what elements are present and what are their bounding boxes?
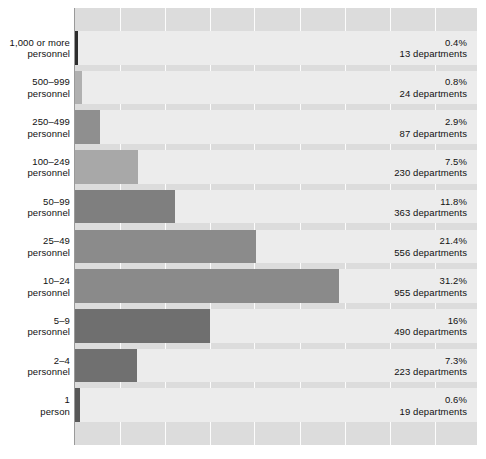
bar <box>75 31 78 65</box>
chart-row: 25–49personnel21.4%556 departments <box>0 227 486 267</box>
chart-row: 2–4personnel7.3%223 departments <box>0 346 486 386</box>
category-label: 100–249personnel <box>0 155 70 178</box>
category-label-line1: 1,000 or more <box>0 36 70 48</box>
value-percent: 16% <box>394 314 467 326</box>
category-label: 10–24personnel <box>0 275 70 298</box>
chart-row: 1person0.6%19 departments <box>0 385 486 425</box>
category-label-line1: 100–249 <box>0 155 70 167</box>
value-label: 16%490 departments <box>394 314 467 337</box>
value-label: 31.2%955 departments <box>394 275 467 298</box>
category-label: 500–999personnel <box>0 76 70 99</box>
value-count: 24 departments <box>400 87 467 99</box>
horizontal-bar-chart: 1,000 or morepersonnel0.4%13 departments… <box>0 0 486 459</box>
category-label-line1: 1 <box>0 394 70 406</box>
value-count: 13 departments <box>400 48 467 60</box>
value-percent: 0.4% <box>400 36 467 48</box>
bar <box>75 230 256 264</box>
category-label-line1: 2–4 <box>0 354 70 366</box>
category-label-line2: personnel <box>0 167 70 179</box>
chart-row: 250–499personnel2.9%87 departments <box>0 107 486 147</box>
category-label-line2: personnel <box>0 326 70 338</box>
category-label: 1,000 or morepersonnel <box>0 36 70 59</box>
bar <box>75 269 339 303</box>
category-label: 1person <box>0 394 70 417</box>
bar <box>75 150 138 184</box>
category-label-line1: 50–99 <box>0 195 70 207</box>
value-count: 556 departments <box>394 246 467 258</box>
category-label: 5–9personnel <box>0 314 70 337</box>
category-label-line2: personnel <box>0 286 70 298</box>
category-label-line1: 250–499 <box>0 116 70 128</box>
value-percent: 7.3% <box>394 354 467 366</box>
chart-row: 100–249personnel7.5%230 departments <box>0 147 486 187</box>
chart-row: 10–24personnel31.2%955 departments <box>0 266 486 306</box>
value-count: 87 departments <box>400 127 467 139</box>
category-label-line2: personnel <box>0 366 70 378</box>
category-label-line2: personnel <box>0 207 70 219</box>
chart-row: 50–99personnel11.8%363 departments <box>0 187 486 227</box>
bar <box>75 388 80 422</box>
value-percent: 31.2% <box>394 275 467 287</box>
value-label: 11.8%363 departments <box>394 195 467 218</box>
value-label: 0.6%19 departments <box>400 394 467 417</box>
value-count: 223 departments <box>394 366 467 378</box>
category-label-line2: personnel <box>0 87 70 99</box>
value-percent: 0.8% <box>400 76 467 88</box>
bar <box>75 110 100 144</box>
value-count: 230 departments <box>394 167 467 179</box>
value-count: 490 departments <box>394 326 467 338</box>
bar <box>75 190 175 224</box>
value-percent: 2.9% <box>400 116 467 128</box>
chart-row: 1,000 or morepersonnel0.4%13 departments <box>0 28 486 68</box>
category-label-line2: personnel <box>0 127 70 139</box>
category-label-line2: personnel <box>0 48 70 60</box>
category-label-line1: 10–24 <box>0 275 70 287</box>
chart-row: 5–9personnel16%490 departments <box>0 306 486 346</box>
bar <box>75 349 137 383</box>
bar <box>75 71 82 105</box>
category-label-line1: 5–9 <box>0 314 70 326</box>
category-label: 25–49personnel <box>0 235 70 258</box>
chart-row: 500–999personnel0.8%24 departments <box>0 68 486 108</box>
value-label: 7.5%230 departments <box>394 155 467 178</box>
value-label: 21.4%556 departments <box>394 235 467 258</box>
value-count: 955 departments <box>394 286 467 298</box>
category-label: 250–499personnel <box>0 116 70 139</box>
category-label-line2: person <box>0 405 70 417</box>
value-percent: 11.8% <box>394 195 467 207</box>
value-percent: 7.5% <box>394 155 467 167</box>
value-percent: 0.6% <box>400 394 467 406</box>
value-label: 0.4%13 departments <box>400 36 467 59</box>
value-percent: 21.4% <box>394 235 467 247</box>
value-label: 7.3%223 departments <box>394 354 467 377</box>
value-label: 0.8%24 departments <box>400 76 467 99</box>
category-label: 2–4personnel <box>0 354 70 377</box>
value-label: 2.9%87 departments <box>400 116 467 139</box>
value-count: 19 departments <box>400 405 467 417</box>
bar <box>75 309 210 343</box>
category-label: 50–99personnel <box>0 195 70 218</box>
category-label-line2: personnel <box>0 246 70 258</box>
category-label-line1: 500–999 <box>0 76 70 88</box>
value-count: 363 departments <box>394 207 467 219</box>
chart-rows: 1,000 or morepersonnel0.4%13 departments… <box>0 8 486 445</box>
category-label-line1: 25–49 <box>0 235 70 247</box>
